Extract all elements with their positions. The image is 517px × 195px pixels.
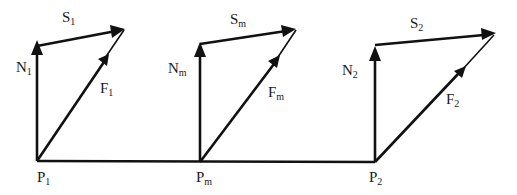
label-f1: F1: [100, 80, 113, 98]
arrowhead-icon: [31, 40, 43, 55]
label-p2: P2: [369, 169, 382, 187]
force-vector-f1: [37, 62, 104, 161]
arrowhead-icon: [481, 28, 496, 40]
shear-vector-sm: [200, 31, 286, 44]
label-n1: N1: [16, 59, 32, 77]
label-s2: S2: [410, 15, 423, 33]
label-f2: F2: [446, 91, 459, 109]
label-n2: N2: [342, 62, 358, 80]
label-fm: Fm: [268, 84, 284, 102]
force-vector-fm: [200, 64, 274, 162]
label-sm: Sm: [230, 11, 246, 29]
force-vector-f2-tail: [462, 35, 494, 70]
shear-vector-s1: [37, 31, 116, 46]
baseline: [37, 161, 375, 162]
label-p1: P1: [37, 169, 50, 187]
label-pm: Pm: [196, 169, 212, 187]
label-nm: Nm: [168, 60, 187, 78]
force-vector-f2: [375, 73, 459, 162]
shear-vector-s2: [375, 35, 484, 45]
arrowhead-icon: [281, 25, 296, 37]
label-s1: S1: [62, 9, 75, 27]
arrowhead-icon: [369, 46, 381, 61]
force-vector-diagram: S1 N1 F1 P1 Sm Nm Fm Pm S2 N2 F2 P2: [0, 0, 517, 195]
